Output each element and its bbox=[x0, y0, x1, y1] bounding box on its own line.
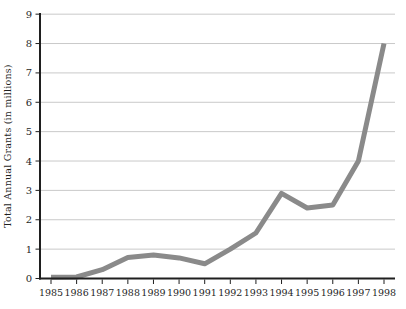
grants-line-chart: 0123456789 19851986198719881989199019911… bbox=[0, 0, 406, 309]
gridlines bbox=[40, 14, 395, 249]
x-tick-label-1989: 1989 bbox=[141, 287, 165, 298]
y-tick-label-2: 2 bbox=[26, 214, 32, 225]
y-tick-label-6: 6 bbox=[26, 97, 32, 108]
grants-trend-line bbox=[51, 44, 384, 278]
x-tick-label-1988: 1988 bbox=[116, 287, 140, 298]
x-tick-label-1993: 1993 bbox=[244, 287, 268, 298]
y-tick-label-0: 0 bbox=[26, 273, 32, 284]
x-tick-label-1995: 1995 bbox=[295, 287, 319, 298]
y-tick-label-8: 8 bbox=[26, 38, 32, 49]
x-tick-label-1991: 1991 bbox=[193, 287, 217, 298]
grants-line-chart-canvas: 0123456789 19851986198719881989199019911… bbox=[0, 0, 406, 309]
y-axis-tick-labels: 0123456789 bbox=[26, 9, 32, 284]
x-tick-label-1994: 1994 bbox=[269, 287, 293, 298]
y-tick-label-4: 4 bbox=[26, 156, 32, 167]
x-tick-label-1997: 1997 bbox=[346, 287, 370, 298]
y-tick-label-9: 9 bbox=[26, 9, 32, 20]
y-axis-title: Total Annual Grants (in millions) bbox=[2, 64, 13, 228]
x-tick-label-1998: 1998 bbox=[372, 287, 396, 298]
y-tick-label-7: 7 bbox=[26, 67, 32, 78]
axis-ticks bbox=[36, 14, 385, 284]
y-tick-label-3: 3 bbox=[26, 185, 32, 196]
y-tick-label-1: 1 bbox=[26, 244, 32, 255]
x-tick-label-1996: 1996 bbox=[321, 287, 345, 298]
x-tick-label-1992: 1992 bbox=[218, 287, 242, 298]
x-tick-label-1987: 1987 bbox=[90, 287, 114, 298]
x-tick-label-1990: 1990 bbox=[167, 287, 191, 298]
y-tick-label-5: 5 bbox=[26, 126, 32, 137]
x-axis-tick-labels: 1985198619871988198919901991199219931994… bbox=[39, 287, 396, 298]
x-tick-label-1986: 1986 bbox=[65, 287, 89, 298]
x-tick-label-1985: 1985 bbox=[39, 287, 63, 298]
